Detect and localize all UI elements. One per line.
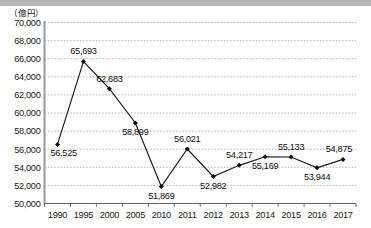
y-tick-label: 58,000 bbox=[14, 126, 40, 136]
y-tick-label: 66,000 bbox=[14, 54, 40, 64]
x-tick-label: 2011 bbox=[178, 210, 197, 220]
y-tick-label: 68,000 bbox=[14, 36, 40, 46]
data-point-marker bbox=[341, 157, 346, 162]
x-tick-label: 2016 bbox=[307, 210, 326, 220]
y-tick-label: 52,000 bbox=[14, 181, 40, 191]
data-point-marker bbox=[289, 155, 294, 160]
y-tick-label: 50,000 bbox=[14, 199, 40, 209]
y-tick-label: 64,000 bbox=[14, 72, 40, 82]
y-tick-label: 54,000 bbox=[14, 163, 40, 173]
data-point-marker bbox=[55, 142, 60, 147]
data-value-label: 65,693 bbox=[70, 46, 96, 56]
line-chart: 50,00052,00054,00056,00058,00060,00062,0… bbox=[0, 0, 371, 228]
x-axis bbox=[45, 204, 357, 208]
chart-page: （億円） 50,00052,00054,00056,00058,00060,00… bbox=[0, 0, 371, 228]
y-tick-labels: 50,00052,00054,00056,00058,00060,00062,0… bbox=[14, 18, 40, 209]
x-tick-label: 2000 bbox=[100, 210, 119, 220]
data-value-label: 55,133 bbox=[278, 142, 304, 152]
x-tick-label: 2010 bbox=[152, 210, 171, 220]
y-tick-label: 62,000 bbox=[14, 90, 40, 100]
data-value-label: 53,944 bbox=[304, 172, 330, 182]
data-value-label: 56,021 bbox=[174, 134, 200, 144]
x-tick-label: 2015 bbox=[281, 210, 300, 220]
x-tick-labels: 1990199520002005201020112012201320142015… bbox=[48, 210, 353, 220]
data-value-label: 52,982 bbox=[200, 181, 226, 191]
data-value-label: 58,899 bbox=[122, 127, 148, 137]
data-value-labels: 56,52565,69362,68358,89951,86956,02152,9… bbox=[50, 46, 352, 200]
x-tick-label: 2014 bbox=[256, 210, 275, 220]
data-value-label: 62,683 bbox=[96, 74, 122, 84]
x-tick-label: 1990 bbox=[48, 210, 67, 220]
x-tick-label: 1995 bbox=[74, 210, 93, 220]
x-tick-label: 2017 bbox=[333, 210, 352, 220]
x-tick-label: 2012 bbox=[204, 210, 223, 220]
data-point-marker bbox=[315, 165, 320, 170]
y-tick-label: 70,000 bbox=[14, 18, 40, 28]
y-tick-label: 56,000 bbox=[14, 145, 40, 155]
data-value-label: 56,525 bbox=[50, 148, 76, 158]
data-value-label: 54,875 bbox=[326, 144, 352, 154]
data-value-label: 54,217 bbox=[226, 150, 252, 160]
data-point-marker bbox=[263, 154, 268, 159]
y-tick-label: 60,000 bbox=[14, 108, 40, 118]
x-tick-label: 2013 bbox=[230, 210, 249, 220]
x-tick-label: 2005 bbox=[126, 210, 145, 220]
data-value-label: 51,869 bbox=[148, 191, 174, 201]
data-value-label: 55,169 bbox=[252, 161, 278, 171]
